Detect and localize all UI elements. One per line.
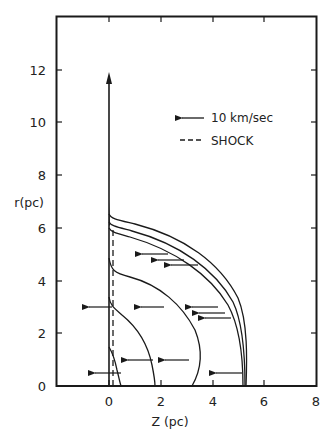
front-4 bbox=[109, 228, 243, 386]
front-3 bbox=[109, 258, 200, 386]
chart: 0 2 4 6 8 0 2 4 6 8 10 12 Z (pc) r(pc) 1… bbox=[0, 0, 336, 440]
y-axis-ticks bbox=[56, 70, 317, 333]
legend-shock-label: SHOCK bbox=[211, 134, 254, 148]
svg-text:0: 0 bbox=[38, 379, 46, 394]
legend: 10 km/sec SHOCK bbox=[180, 111, 273, 148]
front-1 bbox=[109, 347, 121, 386]
svg-text:2: 2 bbox=[38, 326, 46, 341]
svg-text:0: 0 bbox=[105, 394, 113, 409]
svg-text:4: 4 bbox=[209, 394, 217, 409]
svg-text:12: 12 bbox=[29, 63, 46, 78]
plot-frame bbox=[57, 17, 317, 387]
svg-text:6: 6 bbox=[260, 394, 268, 409]
x-axis-title: Z (pc) bbox=[151, 414, 188, 429]
svg-text:4: 4 bbox=[38, 274, 46, 289]
svg-text:2: 2 bbox=[157, 394, 165, 409]
svg-text:6: 6 bbox=[38, 221, 46, 236]
y-axis-title: r(pc) bbox=[14, 195, 44, 210]
x-tick-labels: 0 2 4 6 8 bbox=[105, 394, 320, 409]
y-tick-labels: 0 2 4 6 8 10 12 bbox=[29, 63, 46, 394]
svg-text:8: 8 bbox=[312, 394, 320, 409]
svg-text:8: 8 bbox=[38, 168, 46, 183]
svg-text:10: 10 bbox=[29, 115, 46, 130]
legend-arrow-label: 10 km/sec bbox=[211, 111, 273, 125]
